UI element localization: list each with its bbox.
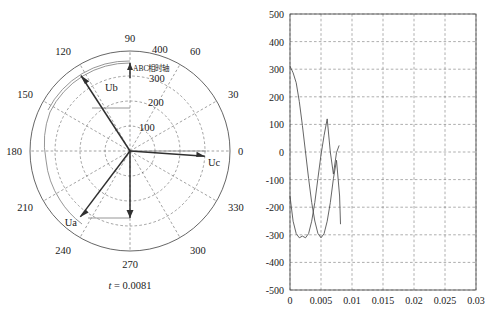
timeseries-ytick-100: 100 bbox=[269, 119, 284, 130]
timeseries-plot-svg: 500 400 300 200 100 0 -100 -200 -300 -40… bbox=[248, 0, 496, 321]
polar-radial-label-100: 100 bbox=[139, 122, 155, 133]
timeseries-xtick-0p005: 0.005 bbox=[310, 295, 333, 306]
polar-chart-title: ABC相时轴 bbox=[133, 63, 169, 73]
polar-radial-label-300: 300 bbox=[149, 73, 165, 84]
timeseries-xtick-0: 0 bbox=[288, 295, 293, 306]
polar-angle-label-90: 90 bbox=[125, 33, 136, 44]
phasor-label-ub: Ub bbox=[105, 82, 118, 93]
polar-phasor-chart: 0 30 60 90 120 150 180 210 240 270 300 3… bbox=[0, 0, 248, 321]
polar-angle-label-300: 300 bbox=[190, 245, 206, 256]
polar-angle-label-210: 210 bbox=[17, 202, 33, 213]
polar-time-caption: t = 0.0081 bbox=[109, 280, 152, 291]
polar-angle-label-0: 0 bbox=[238, 146, 243, 157]
timeseries-chart: 500 400 300 200 100 0 -100 -200 -300 -40… bbox=[248, 0, 496, 321]
polar-angle-label-30: 30 bbox=[228, 89, 239, 100]
timeseries-ytick-500: 500 bbox=[269, 9, 284, 20]
polar-angle-label-330: 330 bbox=[228, 202, 244, 213]
matlab-figure: 0 30 60 90 120 150 180 210 240 270 300 3… bbox=[0, 0, 496, 321]
timeseries-ytick-neg100: -100 bbox=[266, 175, 284, 186]
timeseries-ytick-neg300: -300 bbox=[266, 230, 284, 241]
phasor-vector-reference-down bbox=[127, 151, 134, 218]
timeseries-xtick-0p02: 0.02 bbox=[405, 295, 423, 306]
polar-radial-label-400: 400 bbox=[152, 44, 168, 55]
polar-angle-label-180: 180 bbox=[6, 146, 22, 157]
polar-angle-label-150: 150 bbox=[17, 89, 33, 100]
polar-angle-label-270: 270 bbox=[122, 259, 138, 270]
timeseries-xtick-0p01: 0.01 bbox=[343, 295, 361, 306]
timeseries-ytick-200: 200 bbox=[269, 92, 284, 103]
polar-angle-label-240: 240 bbox=[55, 245, 71, 256]
timeseries-xtick-0p015: 0.015 bbox=[372, 295, 395, 306]
phasor-label-ua: Ua bbox=[65, 217, 78, 228]
timeseries-ytick-400: 400 bbox=[269, 37, 284, 48]
time-caption-value: = 0.0081 bbox=[111, 280, 151, 291]
phasor-label-uc: Uc bbox=[208, 157, 221, 168]
timeseries-ytick-0: 0 bbox=[279, 147, 284, 158]
polar-plot-svg: 0 30 60 90 120 150 180 210 240 270 300 3… bbox=[0, 0, 248, 321]
timeseries-xtick-0p03: 0.03 bbox=[467, 295, 485, 306]
timeseries-xtick-0p025: 0.025 bbox=[434, 295, 457, 306]
polar-angle-label-60: 60 bbox=[190, 46, 201, 57]
polar-angle-label-120: 120 bbox=[55, 46, 71, 57]
phasor-vector-ua bbox=[80, 151, 130, 217]
phasor-vector-uc bbox=[130, 151, 205, 157]
timeseries-gridlines bbox=[290, 14, 476, 290]
timeseries-ytick-neg200: -200 bbox=[266, 202, 284, 213]
timeseries-ytick-neg400: -400 bbox=[266, 257, 284, 268]
timeseries-ytick-300: 300 bbox=[269, 64, 284, 75]
timeseries-ytick-neg500: -500 bbox=[266, 285, 284, 296]
polar-radial-label-200: 200 bbox=[148, 97, 164, 108]
